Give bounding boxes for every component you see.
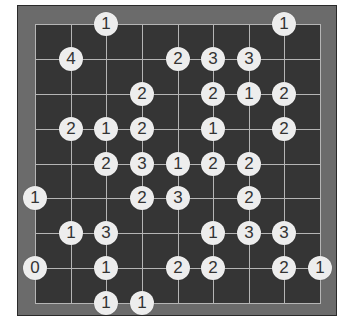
island[interactable]: 2 [272, 256, 296, 280]
island[interactable]: 0 [23, 256, 47, 280]
island[interactable]: 2 [201, 256, 225, 280]
island[interactable]: 2 [237, 152, 261, 176]
island[interactable]: 2 [201, 82, 225, 106]
island[interactable]: 2 [272, 82, 296, 106]
island[interactable]: 2 [130, 82, 154, 106]
island[interactable]: 1 [23, 186, 47, 210]
island[interactable]: 1 [94, 256, 118, 280]
island[interactable]: 2 [130, 117, 154, 141]
island[interactable]: 1 [94, 12, 118, 36]
island[interactable]: 2 [272, 117, 296, 141]
island[interactable]: 2 [59, 117, 83, 141]
island[interactable]: 1 [130, 291, 154, 315]
island[interactable]: 3 [166, 186, 190, 210]
island[interactable]: 3 [237, 47, 261, 71]
island[interactable]: 4 [59, 47, 83, 71]
island[interactable]: 1 [201, 117, 225, 141]
island[interactable]: 1 [59, 221, 83, 245]
island[interactable]: 3 [237, 221, 261, 245]
island[interactable]: 3 [94, 221, 118, 245]
island[interactable]: 2 [130, 186, 154, 210]
island[interactable]: 1 [237, 82, 261, 106]
island[interactable]: 2 [94, 152, 118, 176]
island[interactable]: 1 [272, 12, 296, 36]
island[interactable]: 3 [130, 152, 154, 176]
island[interactable]: 1 [94, 291, 118, 315]
island[interactable]: 1 [94, 117, 118, 141]
island[interactable]: 3 [201, 47, 225, 71]
island[interactable]: 3 [272, 221, 296, 245]
island[interactable]: 2 [166, 47, 190, 71]
island[interactable]: 1 [166, 152, 190, 176]
island[interactable]: 2 [166, 256, 190, 280]
island[interactable]: 2 [237, 186, 261, 210]
island[interactable]: 2 [201, 152, 225, 176]
island[interactable]: 1 [201, 221, 225, 245]
island[interactable]: 1 [308, 256, 332, 280]
